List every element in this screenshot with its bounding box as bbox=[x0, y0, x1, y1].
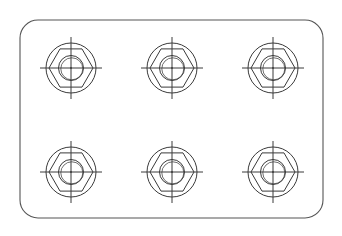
center-point bbox=[70, 171, 72, 173]
thread-circle bbox=[162, 162, 184, 184]
center-point bbox=[272, 171, 274, 173]
bolt-symbol bbox=[40, 37, 102, 99]
bolt-symbol bbox=[242, 141, 304, 203]
bolt-plate-drawing bbox=[0, 0, 342, 236]
center-point bbox=[272, 67, 274, 69]
center-point bbox=[171, 67, 173, 69]
bolt-symbol bbox=[242, 37, 304, 99]
center-point bbox=[70, 67, 72, 69]
thread-circle bbox=[61, 162, 83, 184]
center-point bbox=[171, 171, 173, 173]
bolt-symbol bbox=[141, 141, 203, 203]
technical-drawing bbox=[0, 0, 342, 236]
thread-circle bbox=[61, 58, 83, 80]
bolt-symbol bbox=[141, 37, 203, 99]
thread-circle bbox=[263, 162, 285, 184]
bolt-symbol bbox=[40, 141, 102, 203]
bolt-group bbox=[40, 37, 304, 203]
thread-circle bbox=[162, 58, 184, 80]
thread-circle bbox=[263, 58, 285, 80]
